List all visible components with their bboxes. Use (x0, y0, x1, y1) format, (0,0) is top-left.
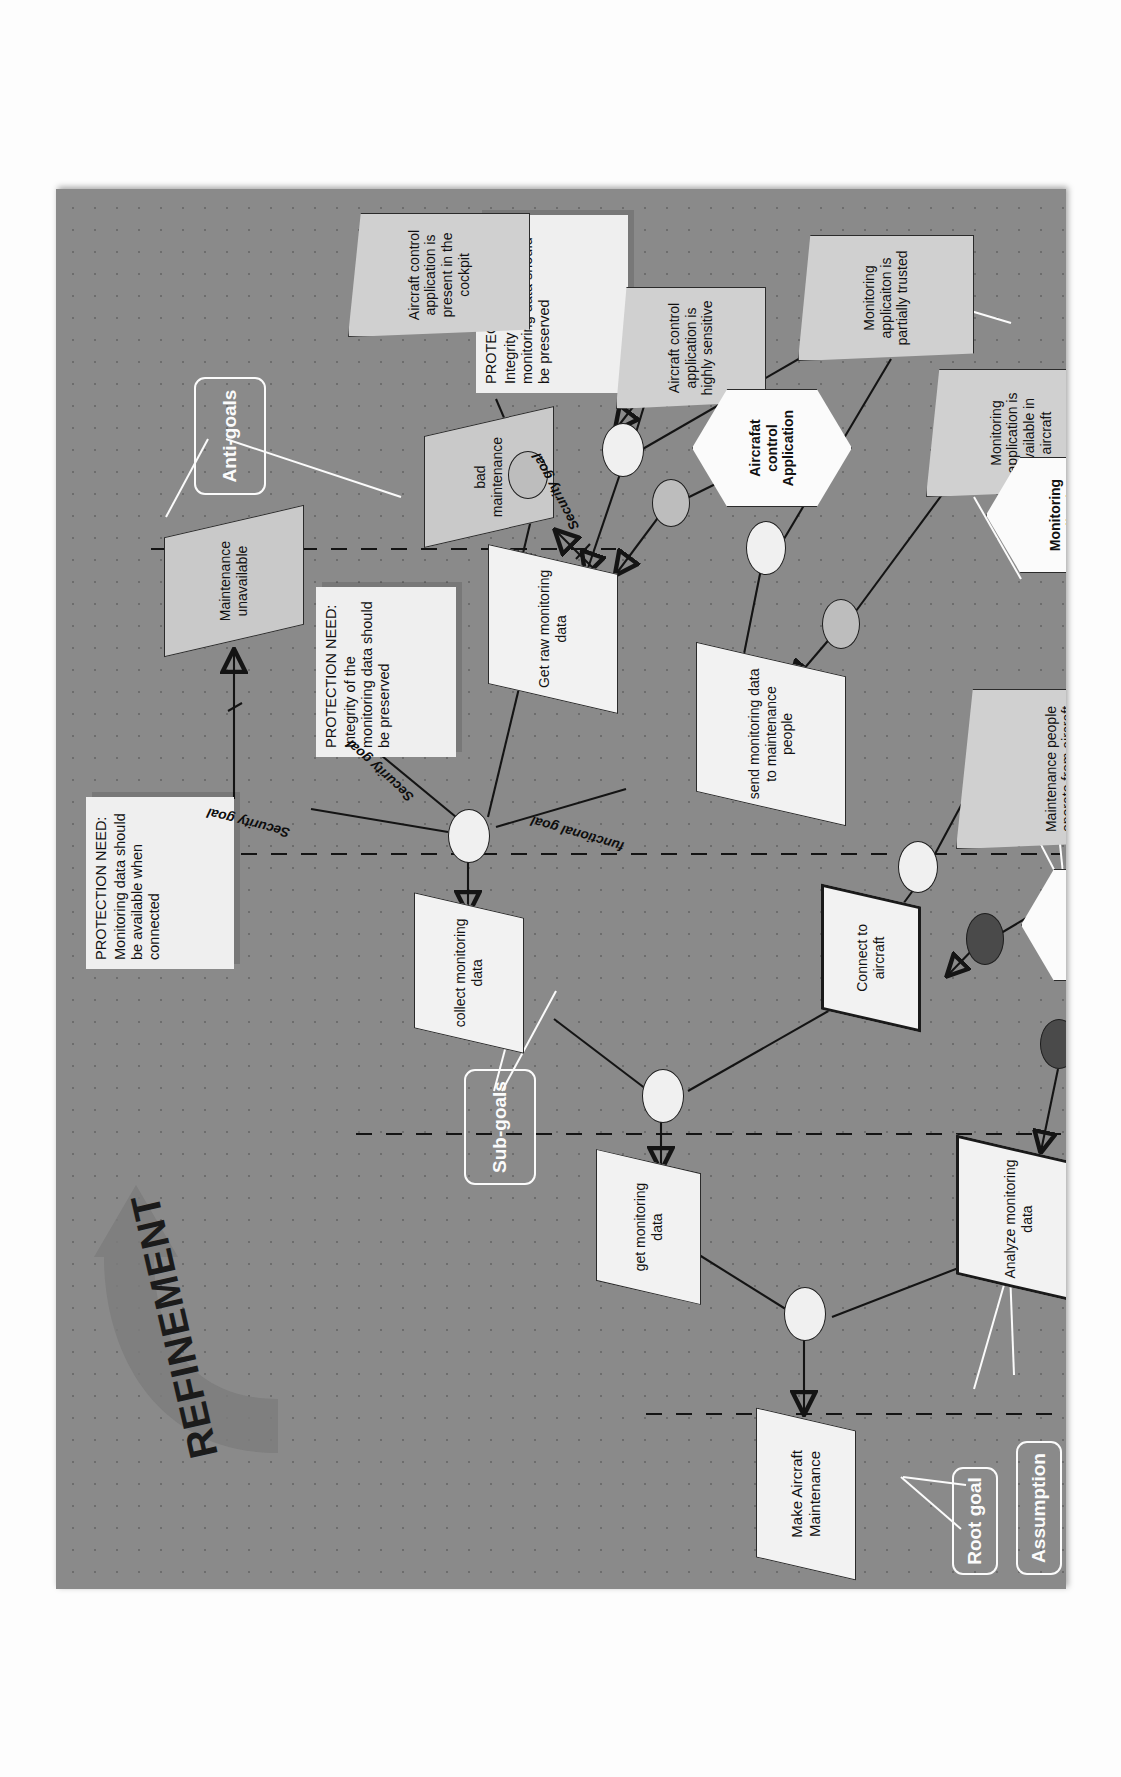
legend-sub-goals[interactable]: Sub-goals (464, 1069, 536, 1185)
goal-label: Connect to aircraft (854, 904, 887, 1012)
note-head: PROTECTION NEED: (323, 604, 340, 747)
domain-property-label: Maintenance people operate from aircraft… (1042, 696, 1065, 842)
domain-property-label: Monitoring applicaiton is partially trus… (861, 242, 911, 354)
domain-property-partially-trusted[interactable]: Monitoring applicaiton is partially trus… (798, 235, 974, 361)
legend-label: Anti-goals (219, 389, 240, 482)
goal-label: Analyze monitoring data (1001, 1158, 1034, 1280)
refinement-node-collect-monitoring[interactable] (448, 809, 490, 863)
legend-assumption[interactable]: Assumption (1016, 1441, 1062, 1575)
domain-property-landing-territory[interactable]: Maintenance people operate from aircraft… (956, 689, 1066, 849)
legend-label: Sub-goals (489, 1081, 510, 1173)
goal-label: send monitoring data to maintenance peop… (746, 665, 796, 801)
antigoal-label: Maintenance unavailable (217, 528, 250, 634)
note-body: Monitoring data should be available when… (112, 806, 163, 960)
domain-property-label: Aircraft control application is highly s… (666, 294, 716, 402)
antigoal-label: bad maintenance (472, 428, 505, 526)
refinement-node-raw-c[interactable] (652, 479, 690, 527)
refinement-node-get-monitoring[interactable] (642, 1069, 684, 1123)
refinement-node-send-a[interactable] (746, 521, 786, 575)
goal-connect-to-aircraft[interactable]: Connect to aircraft (821, 883, 921, 1032)
agent-label: Monitoring Application (1047, 464, 1066, 566)
goal-analyze-monitoring-data[interactable]: Analyze monitoring data (956, 1134, 1066, 1303)
goal-collect-monitoring-data[interactable]: collect monitoring data (414, 892, 524, 1053)
domain-property-label: Aircraft control application is present … (405, 220, 471, 330)
legend-anti-goals[interactable]: Anti-goals (194, 377, 266, 495)
goal-label: Make Aircraft Maintenance (788, 1426, 823, 1562)
note-body: Integrity of the monitoring data should … (342, 596, 393, 748)
rotated-figure-wrapper: REFINEMENT (0, 0, 1121, 1777)
legend-root-goal[interactable]: Root goal (952, 1467, 998, 1575)
goal-label: get monitoring data (631, 1168, 664, 1286)
goal-label: collect monitoring data (452, 912, 485, 1034)
note-head: PROTECTION NEED: (93, 816, 110, 959)
note-protection-need-availability: PROTECTION NEED: Monitoring data should … (86, 797, 234, 969)
refinement-node-connect-a[interactable] (898, 841, 938, 893)
diagram-canvas: REFINEMENT (56, 189, 1066, 1589)
legend-label: Assumption (1028, 1453, 1049, 1563)
refinement-node-root[interactable] (784, 1287, 826, 1341)
refinement-node-send-b[interactable] (822, 599, 860, 649)
agent-label: Aircrafat control Application (747, 396, 797, 500)
refinement-node-connect-b[interactable] (966, 913, 1004, 965)
domain-property-present-in-cockpit[interactable]: Aircraft control application is present … (348, 213, 530, 337)
legend-label: Root goal (964, 1477, 985, 1565)
note-protection-need-integrity-monitoring: PROTECTION NEED: Integrity of the monito… (316, 587, 456, 757)
figure-page: REFINEMENT (0, 0, 1121, 1777)
refinement-node-raw-b[interactable] (602, 423, 644, 477)
goal-get-monitoring-data[interactable]: get monitoring data (596, 1148, 701, 1304)
goal-get-raw-monitoring-data[interactable]: Get raw monitoring data (488, 543, 618, 713)
goal-make-aircraft-maintenance[interactable]: Make Aircraft Maintenance (756, 1407, 856, 1580)
goal-label: Get raw monitoring data (536, 566, 569, 692)
